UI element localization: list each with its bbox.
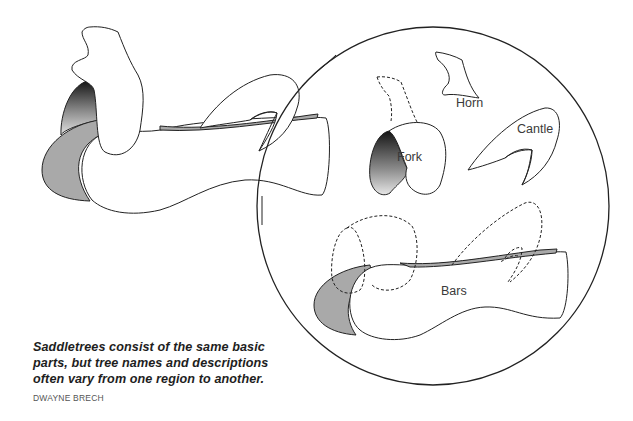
horn-part: [436, 52, 479, 98]
figure-caption: Saddletrees consist of the same basic pa…: [33, 339, 273, 387]
cantle-part: [468, 108, 559, 185]
illustration-credit: DWAYNE BRECH: [33, 393, 104, 403]
fork-dashed-horn: [377, 77, 417, 122]
caption-line-1: Saddletrees consist of the same basic: [33, 339, 273, 355]
label-fork: Fork: [397, 150, 423, 164]
label-cantle: Cantle: [517, 122, 553, 136]
magnifier-circle: [257, 27, 609, 385]
label-bars: Bars: [441, 284, 467, 298]
caption-line-3: often vary from one region to another.: [33, 371, 273, 387]
label-horn: Horn: [456, 96, 483, 110]
assembled-saddletree: [42, 27, 336, 225]
caption-line-2: parts, but tree names and descriptions: [33, 355, 273, 371]
